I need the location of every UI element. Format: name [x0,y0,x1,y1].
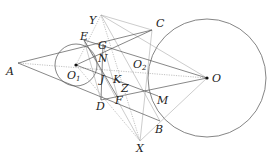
label-y: Y [89,14,98,27]
label-o: O [212,72,221,85]
label-x: X [135,142,145,155]
label-o2: O2 [133,58,147,72]
label-n: N [97,52,108,65]
label-g: G [98,39,107,52]
segment-x-c [140,30,152,141]
label-m: M [156,94,169,107]
label-c: C [156,17,165,30]
label-b: B [154,123,163,136]
label-e: E [79,30,88,43]
segment-x-e [84,40,140,141]
label-j: J [98,73,105,86]
geometry-diagram: AYCEGNO1O2OJKZDFMBX [0,0,270,158]
segment-o1-x [76,65,140,141]
center-point-o [205,76,208,79]
label-f: F [114,94,123,107]
label-o1: O1 [67,69,81,83]
label-a: A [5,65,14,78]
label-d: D [95,100,105,113]
center-point-o1 [74,63,77,66]
segment-y-c [101,15,152,30]
segment-x-o [140,78,207,141]
